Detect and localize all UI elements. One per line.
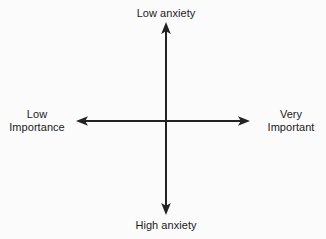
label-low-importance: Low Importance — [2, 108, 72, 133]
label-very-important-line1: Very — [256, 108, 326, 121]
label-high-anxiety: High anxiety — [0, 219, 326, 232]
label-very-important-line2: Important — [256, 121, 326, 134]
quadrant-diagram: Low anxiety High anxiety Low Importance … — [0, 0, 326, 239]
label-low-anxiety: Low anxiety — [0, 7, 326, 20]
label-low-importance-line2: Importance — [2, 121, 72, 134]
label-very-important: Very Important — [256, 108, 326, 133]
label-low-importance-line1: Low — [2, 108, 72, 121]
